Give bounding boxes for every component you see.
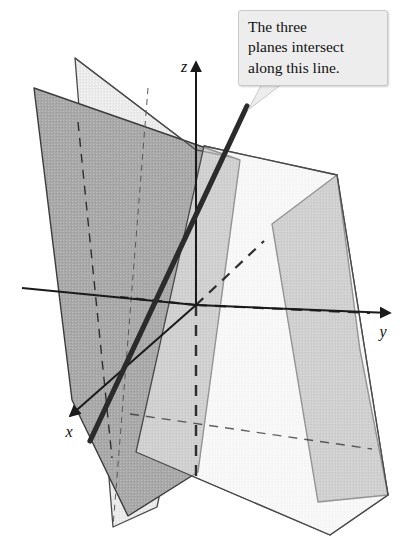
- callout-tail: [248, 84, 282, 110]
- x-axis-label: x: [64, 423, 72, 440]
- callout-text: The three planes intersect along this li…: [248, 17, 379, 78]
- z-axis-label: z: [180, 58, 188, 75]
- three-planes-diagram: x y z The three planes intersect along t…: [0, 0, 405, 556]
- y-axis-label: y: [377, 323, 387, 341]
- callout-annotation: The three planes intersect along this li…: [238, 10, 388, 86]
